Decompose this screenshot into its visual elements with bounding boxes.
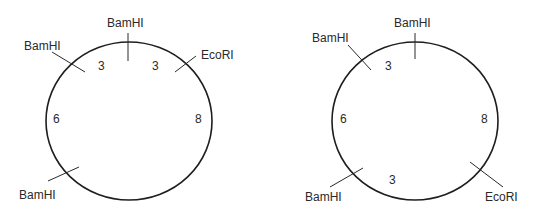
restriction-maps: BamHI EcoRI BamHI BamHI 3 3 8 6 BamHI Ba… (0, 0, 536, 211)
fragment-size: 8 (195, 112, 202, 126)
site-label-upper-left: BamHI (312, 31, 349, 45)
fragment-size: 3 (389, 173, 396, 187)
plasmid-circle (46, 42, 212, 200)
site-label-top: BamHI (107, 16, 144, 30)
fragment-size: 3 (385, 59, 392, 73)
site-tick-upper-left (348, 45, 371, 70)
fragment-size: 3 (98, 59, 105, 73)
fragment-size: 3 (152, 59, 159, 73)
plasmid-map-1: BamHI EcoRI BamHI BamHI 3 3 8 6 (19, 16, 234, 202)
fragment-size: 6 (340, 112, 347, 126)
site-label-upper-right: EcoRI (201, 48, 234, 62)
plasmid-map-2: BamHI BamHI BamHI EcoRI 3 8 3 6 (305, 16, 518, 204)
site-label-upper-left: BamHI (24, 39, 61, 53)
fragment-size: 6 (53, 112, 60, 126)
fragment-size: 8 (481, 112, 488, 126)
site-tick-lower-right (470, 162, 503, 187)
site-label-top: BamHI (394, 16, 431, 30)
site-label-lower-right: EcoRI (485, 190, 518, 204)
site-tick-upper-left (52, 52, 85, 72)
site-label-lower-left: BamHI (305, 190, 342, 204)
site-label-lower-left: BamHI (19, 188, 56, 202)
plasmid-circle (332, 42, 498, 200)
